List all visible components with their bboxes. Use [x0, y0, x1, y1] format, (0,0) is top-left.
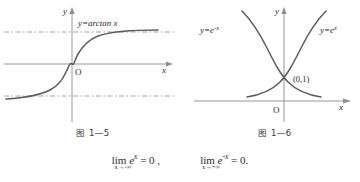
limit-exponent-1: x	[134, 152, 137, 161]
curve-label-e-minus-x: y=e-x	[199, 24, 219, 35]
y-axis-arrow	[281, 7, 286, 14]
limit-result-2: = 0.	[231, 154, 248, 166]
figure-caption-1-6: 图 1—6	[180, 126, 360, 138]
x-axis-label: x	[338, 102, 343, 112]
limit-subscript-1: x→-∞	[112, 163, 134, 170]
plot-exponentials: y x O y=e-x y=ex (0,1)	[180, 0, 360, 124]
curve-label-e-x: y=ex	[319, 24, 337, 35]
figure-1-6: y x O y=e-x y=ex (0,1) 图 1—6	[180, 0, 360, 150]
x-axis-arrow	[343, 98, 351, 103]
arctan-curve	[6, 30, 158, 99]
curve-e-to-the-x	[247, 11, 326, 97]
y-axis-arrow	[69, 7, 74, 14]
curve-e-to-the-minus-x	[242, 11, 321, 97]
figure-page: y x O y=arctan x 图 1—5 y	[0, 0, 360, 182]
y-axis-label: y	[62, 6, 67, 16]
intersection-point-label: (0,1)	[293, 74, 309, 84]
x-axis-label: x	[161, 65, 166, 75]
origin-label: O	[75, 67, 82, 77]
limit-exponent-2: -x	[222, 152, 228, 161]
limit-expression-2: limx→+∞ e-x = 0.	[200, 152, 248, 166]
plot-arctan: y x O y=arctan x	[0, 0, 180, 124]
limit-subscript-2: x→+∞	[200, 163, 222, 170]
y-axis-label: y	[274, 6, 279, 16]
figure-1-5: y x O y=arctan x 图 1—5	[0, 0, 180, 150]
limit-expression-1: limx→-∞ ex = 0 ,	[112, 152, 160, 166]
x-axis-arrow	[166, 61, 173, 66]
limit-formula-row: limx→-∞ ex = 0 , limx→+∞ e-x = 0.	[0, 152, 360, 182]
curve-label-arctan: y=arctan x	[77, 18, 117, 28]
limit-result-1: = 0 ,	[140, 154, 160, 166]
figure-caption-1-5: 图 1—5	[0, 126, 180, 138]
origin-label: O	[273, 105, 280, 115]
